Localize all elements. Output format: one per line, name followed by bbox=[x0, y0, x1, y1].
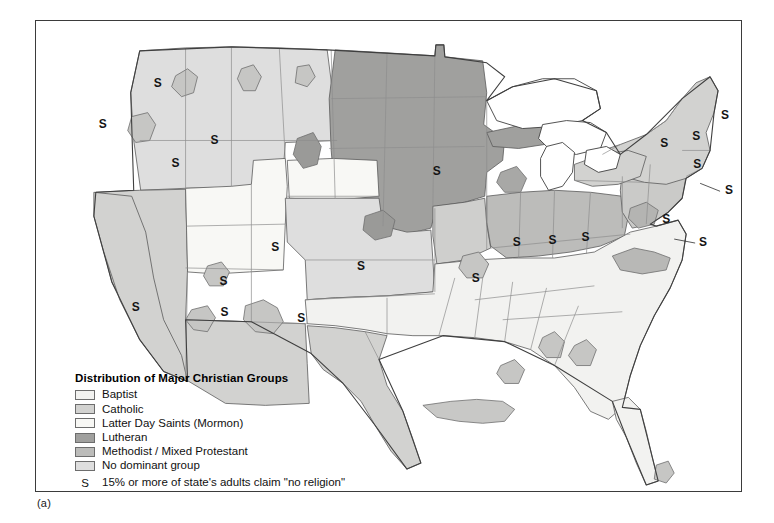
legend-label-no-religion: 15% or more of state's adults claim "no … bbox=[102, 477, 345, 489]
leader-line bbox=[700, 183, 720, 191]
s-marker: S bbox=[699, 235, 707, 249]
s-marker: S bbox=[220, 305, 228, 319]
legend-swatch-lutheran bbox=[75, 433, 95, 443]
legend-item-methodist: Methodist / Mixed Protestant bbox=[75, 445, 363, 459]
legend-item-baptist: Baptist bbox=[75, 388, 363, 402]
legend-item-catholic: Catholic bbox=[75, 402, 363, 416]
legend-item-lutheran: Lutheran bbox=[75, 431, 363, 445]
s-marker: S bbox=[692, 129, 700, 143]
legend-item-mormon: Latter Day Saints (Mormon) bbox=[75, 416, 363, 430]
legend-label-catholic: Catholic bbox=[102, 404, 144, 416]
s-marker: S bbox=[725, 183, 733, 197]
legend-label-methodist: Methodist / Mixed Protestant bbox=[102, 446, 248, 458]
legend-swatch-no-dominant-group bbox=[75, 461, 95, 471]
s-marker: S bbox=[693, 157, 701, 171]
s-marker: S bbox=[662, 212, 670, 226]
legend-label-no-dominant-group: No dominant group bbox=[102, 460, 200, 472]
s-marker: S bbox=[271, 240, 279, 254]
legend-swatch-mormon bbox=[75, 418, 95, 428]
legend-item-no-dominant-group: No dominant group bbox=[75, 459, 363, 473]
s-marker: S bbox=[172, 156, 180, 170]
legend-s-symbol: S bbox=[75, 477, 95, 489]
s-marker: S bbox=[660, 136, 668, 150]
s-marker: S bbox=[297, 311, 305, 325]
s-marker: S bbox=[132, 300, 140, 314]
region-iowa-missouri bbox=[433, 198, 491, 264]
region-louisiana-catholic bbox=[423, 399, 515, 423]
figure-panel: .lyr{stroke:#5a5a5a;stroke-width:0.8;str… bbox=[0, 0, 774, 523]
legend-swatch-baptist bbox=[75, 390, 95, 400]
s-marker: S bbox=[99, 117, 107, 131]
s-marker: S bbox=[472, 271, 480, 285]
region-florida bbox=[612, 397, 658, 485]
legend-title: Distribution of Major Christian Groups bbox=[75, 372, 363, 384]
map-legend: Distribution of Major Christian Groups B… bbox=[69, 368, 369, 492]
figure-caption: (a) bbox=[37, 497, 51, 509]
legend-label-baptist: Baptist bbox=[102, 389, 137, 401]
s-marker: S bbox=[357, 259, 365, 273]
legend-label-mormon: Latter Day Saints (Mormon) bbox=[102, 418, 243, 430]
legend-swatch-catholic bbox=[75, 404, 95, 414]
legend-label-lutheran: Lutheran bbox=[102, 432, 147, 444]
legend-item-no-religion: S 15% or more of state's adults claim "n… bbox=[75, 475, 363, 490]
s-marker: S bbox=[581, 230, 589, 244]
legend-swatch-methodist bbox=[75, 447, 95, 457]
s-marker: S bbox=[549, 233, 557, 247]
s-marker: S bbox=[211, 133, 219, 147]
s-marker: S bbox=[513, 235, 521, 249]
map-frame: .lyr{stroke:#5a5a5a;stroke-width:0.8;str… bbox=[35, 20, 742, 492]
s-marker: S bbox=[154, 76, 162, 90]
s-marker: S bbox=[433, 164, 441, 178]
s-marker: S bbox=[219, 274, 227, 288]
s-marker: S bbox=[721, 108, 729, 122]
